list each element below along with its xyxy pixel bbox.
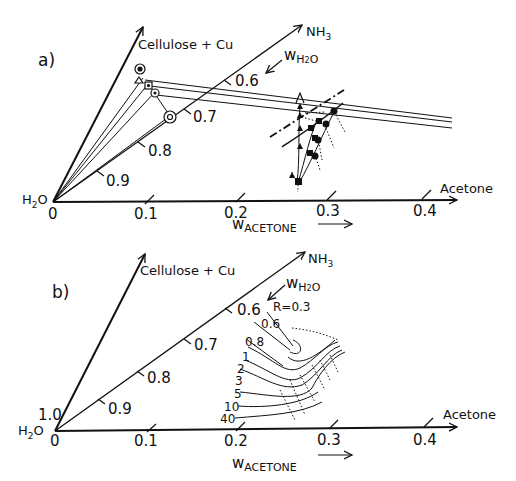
contour-label-3: 3 (235, 375, 243, 387)
h2o-origin-label: H2O (22, 193, 48, 210)
h2o-origin-label: H2O (18, 424, 44, 441)
origin-top-label: 1.0 (38, 408, 62, 423)
panel-a-axes (53, 25, 457, 224)
panel-b-axes (55, 252, 457, 455)
acetone-tick-0.3: 0.3 (317, 433, 341, 448)
water-tick-0.9: 0.9 (108, 402, 132, 417)
contour-label-r0.3: R=0.3 (273, 301, 310, 313)
panel-b-label: b) (52, 284, 69, 301)
cellulose-axis-label: Cellulose + Cu (138, 38, 233, 51)
acetone-tick-0.3: 0.3 (316, 204, 340, 219)
panel-a-markers (135, 64, 176, 123)
water-tick-0.7: 0.7 (194, 338, 218, 353)
panel-a-label: a) (38, 52, 55, 69)
acetone-tick-0.4: 0.4 (413, 204, 437, 219)
contour-label-5: 5 (234, 388, 242, 400)
water-tick-0.9: 0.9 (106, 174, 130, 189)
panel-a-data-cluster (270, 90, 345, 192)
water-tick-0.6: 0.6 (235, 74, 259, 89)
panel-b-contours (235, 312, 345, 420)
w-acetone-label: wACETONE (232, 217, 297, 234)
w-h2o-label: wH2O (286, 276, 320, 293)
acetone-tick-0: 0 (48, 207, 58, 222)
acetone-tick-0: 0 (50, 434, 60, 449)
w-acetone-label: wACETONE (232, 456, 297, 473)
water-tick-0.6: 0.6 (237, 303, 261, 318)
w-h2o-label: wH2O (284, 48, 318, 65)
nh3-axis-label: NH3 (308, 252, 333, 269)
acetone-tick-0.1: 0.1 (134, 434, 158, 449)
acetone-axis-label: Acetone (440, 182, 493, 195)
double-circle-marker (164, 111, 176, 123)
acetone-axis-label: Acetone (443, 408, 496, 421)
water-tick-0.7: 0.7 (193, 110, 217, 125)
acetone-tick-0.2: 0.2 (224, 434, 248, 449)
water-tick-0.8: 0.8 (147, 371, 171, 386)
nh3-axis (55, 252, 305, 431)
acetone-tick-0.1: 0.1 (134, 207, 158, 222)
nh3-axis-label: NH3 (306, 25, 331, 42)
contour-label-0.6: 0.6 (261, 318, 280, 330)
acetone-axis (55, 427, 457, 431)
contour-label-40: 40 (220, 413, 235, 425)
water-tick-0.8: 0.8 (148, 144, 172, 159)
cellulose-axis-label: Cellulose + Cu (140, 264, 235, 277)
contour-label-0.8: 0.8 (245, 336, 264, 348)
panel-a-filled-markers (289, 103, 338, 185)
acetone-axis (53, 200, 457, 202)
acetone-tick-0.4: 0.4 (413, 433, 437, 448)
